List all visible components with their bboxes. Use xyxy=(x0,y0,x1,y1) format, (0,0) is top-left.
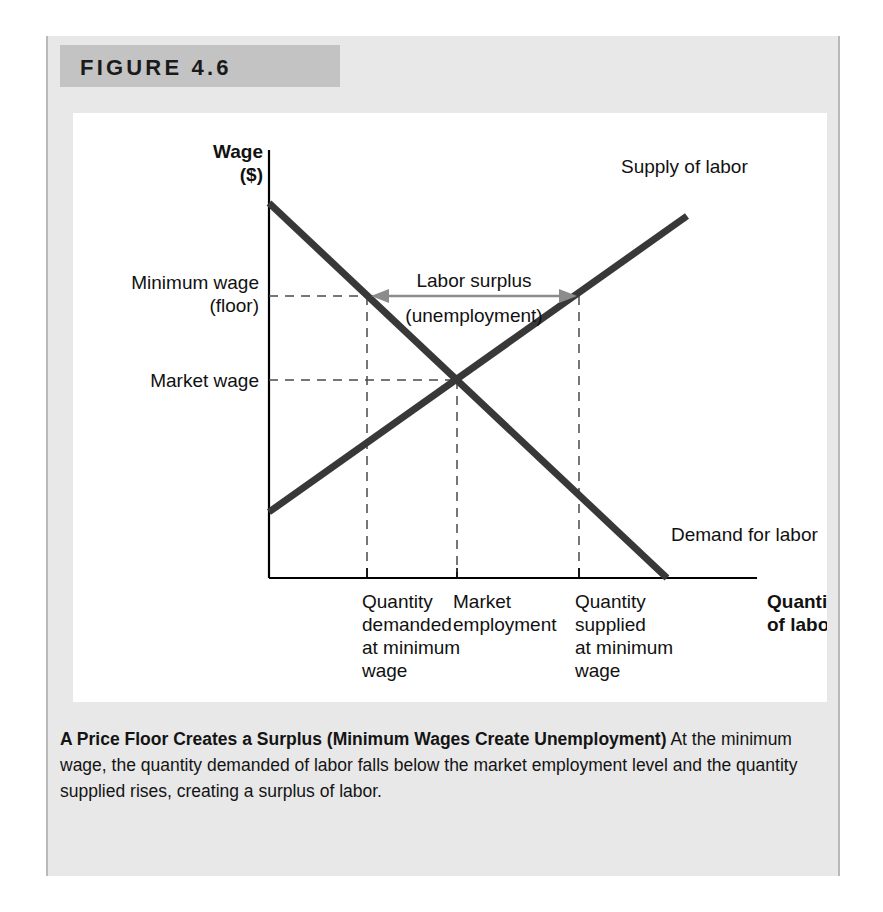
minimum-wage-label-line2: (floor) xyxy=(209,295,259,316)
figure-caption-lead: A Price Floor Creates a Surplus (Minimum… xyxy=(60,729,666,749)
labor-surplus-label-line1: Labor surplus xyxy=(416,270,531,291)
y-axis-title-line1: Wage xyxy=(213,141,263,162)
x-tick-label-market-employment: Market employment xyxy=(453,591,557,635)
x-tick-line-3: wage xyxy=(361,660,407,681)
supply-curve-label: Supply of labor xyxy=(621,156,748,177)
labor-surplus-label-line2: (unemployment) xyxy=(405,305,542,326)
x-tick-line-1: demanded xyxy=(362,614,452,635)
x-tick-line-0: Market xyxy=(453,591,512,612)
supply-demand-chart: Wage ($) Quantity of labor Minimum wa xyxy=(73,113,827,702)
demand-curve xyxy=(269,203,667,578)
x-tick-label-quantity-demanded: Quantity demanded at minimum wage xyxy=(361,591,460,681)
x-tick-line-1: employment xyxy=(453,614,557,635)
x-tick-line-0: Quantity xyxy=(362,591,433,612)
x-tick-line-0: Quantity xyxy=(575,591,646,612)
demand-curve-label: Demand for labor xyxy=(671,524,818,545)
chart-panel: Wage ($) Quantity of labor Minimum wa xyxy=(73,113,827,702)
x-tick-line-2: at minimum xyxy=(362,637,460,658)
x-tick-label-quantity-supplied: Quantity supplied at minimum wage xyxy=(574,591,673,681)
x-tick-line-2: at minimum xyxy=(575,637,673,658)
y-axis-title-line2: ($) xyxy=(240,164,263,185)
market-wage-label: Market wage xyxy=(150,370,259,391)
minimum-wage-label-line1: Minimum wage xyxy=(131,272,259,293)
figure-card: FIGURE 4.6 Wage ($) Quantity of labor xyxy=(46,36,840,876)
x-axis-title-line1: Quantity xyxy=(767,591,827,612)
x-axis-title-line2: of labor xyxy=(767,614,827,635)
x-tick-line-3: wage xyxy=(574,660,620,681)
figure-number-banner: FIGURE 4.6 xyxy=(60,45,340,87)
figure-number-label: FIGURE 4.6 xyxy=(80,55,232,81)
figure-caption: A Price Floor Creates a Surplus (Minimum… xyxy=(60,726,822,804)
x-tick-line-1: supplied xyxy=(575,614,646,635)
